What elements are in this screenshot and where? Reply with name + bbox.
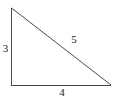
hypotenuse-label: 5 xyxy=(65,34,83,45)
hypotenuse-line xyxy=(12,8,112,85)
vertical-leg-label: 3 xyxy=(0,43,11,54)
triangle-figure: 3 4 5 xyxy=(0,0,113,100)
horizontal-leg-label: 4 xyxy=(52,87,72,98)
right-triangle-shape xyxy=(0,0,113,100)
